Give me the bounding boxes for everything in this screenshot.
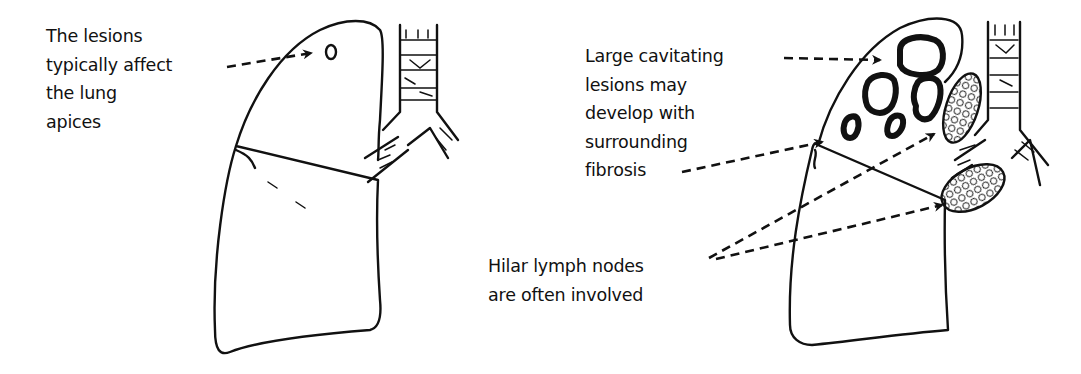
label-line: develop with <box>585 99 724 128</box>
label-line: the lung <box>46 79 172 108</box>
lymph-node-arrow-2 <box>716 205 942 259</box>
left-lung-fissure <box>236 150 255 168</box>
apical-lesion <box>326 45 336 59</box>
label-line: surrounding <box>585 128 724 157</box>
cavitating-arrow <box>784 58 880 60</box>
hilar-lymph-node-1 <box>936 69 989 147</box>
left-lung-outline <box>215 21 383 353</box>
cavitating-lesions-label: Large cavitating lesions may develop wit… <box>585 42 724 185</box>
apical-lesion-label: The lesions typically affect the lung ap… <box>46 22 172 136</box>
label-line: typically affect <box>46 51 172 80</box>
lesion-3 <box>914 78 941 119</box>
left-lung <box>215 21 458 353</box>
hilar-lymph-nodes-label: Hilar lymph nodes are often involved <box>488 252 644 309</box>
label-line: are often involved <box>488 281 644 310</box>
label-line: fibrosis <box>585 156 724 185</box>
label-line: apices <box>46 108 172 137</box>
right-lung-fissure <box>814 150 816 168</box>
label-line: lesions may <box>585 71 724 100</box>
label-line: Hilar lymph nodes <box>488 252 644 281</box>
lesion-5 <box>887 116 903 137</box>
lesion-2 <box>865 75 896 113</box>
left-lesion-arrow <box>227 53 311 67</box>
label-line: The lesions <box>46 22 172 51</box>
left-lung-fissure-dash <box>268 182 305 208</box>
lesion-4 <box>844 116 859 138</box>
label-line: Large cavitating <box>585 42 724 71</box>
lymph-node-arrow-1 <box>709 134 934 258</box>
cavitating-lesions <box>844 37 943 138</box>
right-lung <box>790 19 1048 345</box>
lesion-1 <box>900 37 943 75</box>
